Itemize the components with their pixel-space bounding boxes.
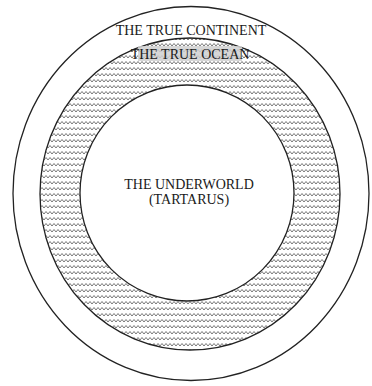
continent-label: THE TRUE CONTINENT — [116, 23, 267, 38]
underworld-label-line1: THE UNDERWORLD — [124, 177, 254, 192]
underworld-label-line2: (TARTARUS) — [149, 192, 229, 208]
cosmology-diagram: THE TRUE CONTINENT THE TRUE OCEAN THE UN… — [0, 0, 372, 386]
ocean-label: THE TRUE OCEAN — [131, 47, 250, 62]
